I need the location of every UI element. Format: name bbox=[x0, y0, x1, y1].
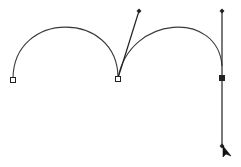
direction-handles[interactable] bbox=[118, 11, 222, 146]
anchor-left-icon[interactable] bbox=[11, 78, 16, 83]
handle-points[interactable] bbox=[137, 9, 225, 149]
bezier-path-canvas[interactable] bbox=[0, 0, 241, 167]
direct-selection-arrow-icon bbox=[223, 146, 231, 157]
handle-point-icon[interactable] bbox=[220, 9, 225, 14]
path-segments[interactable] bbox=[13, 27, 222, 79]
handle-point-icon[interactable] bbox=[137, 9, 142, 14]
anchor-right-icon[interactable] bbox=[220, 76, 225, 81]
anchor-points[interactable] bbox=[11, 76, 225, 83]
right-arc-segment[interactable] bbox=[118, 27, 222, 78]
left-arc-segment[interactable] bbox=[13, 27, 118, 79]
anchor-middle-icon[interactable] bbox=[116, 77, 121, 82]
